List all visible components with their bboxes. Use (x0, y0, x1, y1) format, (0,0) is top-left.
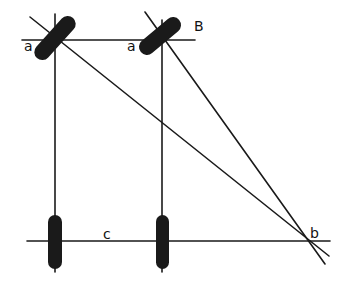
lower-right-upright-object (156, 215, 169, 269)
label-b: b (310, 225, 319, 241)
diagonal-line-left (30, 17, 329, 256)
label-a-right: a (127, 38, 136, 54)
optics-diagram: a a B c b (0, 0, 354, 288)
diagonal-line-right (145, 12, 325, 264)
label-c: c (103, 226, 111, 242)
label-B: B (194, 18, 204, 34)
label-a-left: a (24, 38, 33, 54)
lower-left-upright-object (48, 215, 62, 269)
upper-right-tilted-object (136, 14, 185, 58)
